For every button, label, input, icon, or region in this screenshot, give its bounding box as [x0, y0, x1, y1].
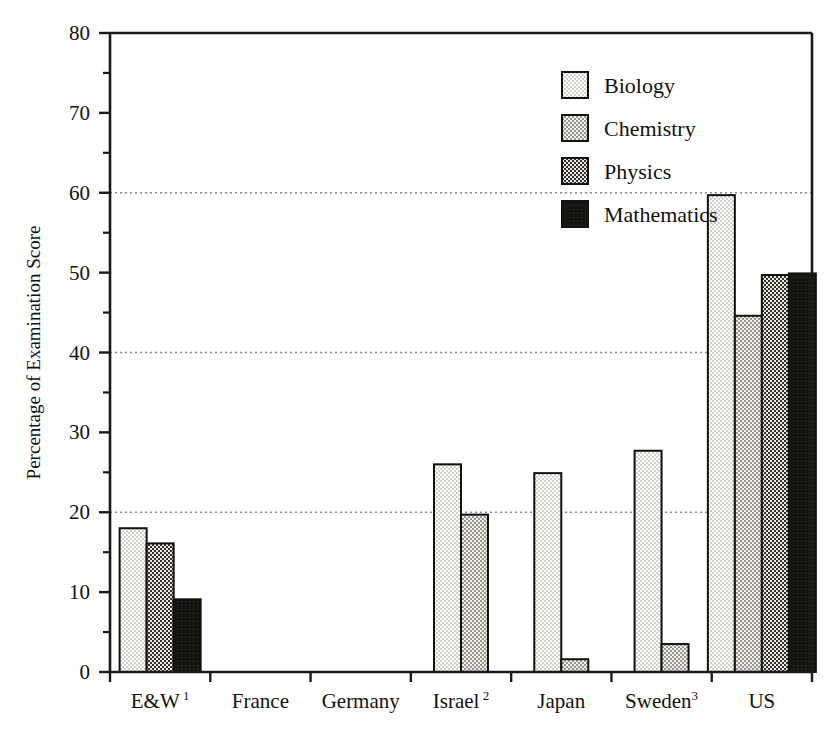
bar-biology-us	[708, 195, 735, 672]
x-category-text: E&W 1	[131, 688, 190, 713]
x-category-label: France	[232, 689, 289, 713]
bar-biology-israel	[434, 464, 461, 672]
bar-biology-ew	[120, 528, 147, 672]
x-category-text: Israel 2	[433, 688, 489, 713]
bar-chemistry-sweden	[662, 644, 689, 672]
bar-chart-figure: 01020304050607080 E&W 1FranceGermanyIsra…	[0, 0, 837, 739]
x-category-text: US	[748, 689, 775, 713]
legend-item-biology: Biology	[562, 72, 675, 98]
x-axis	[110, 672, 812, 682]
x-category-label: Israel 2	[433, 688, 489, 713]
legend-swatch-biology	[562, 72, 588, 98]
x-category-text: Japan	[537, 689, 585, 713]
legend-label-mathematics: Mathematics	[604, 202, 718, 227]
legend-item-mathematics: Mathematics	[562, 201, 718, 227]
legend-swatch-chemistry	[562, 115, 588, 141]
legend-label-physics: Physics	[604, 159, 671, 184]
y-axis-title: Percentage of Examination Score	[23, 226, 44, 480]
y-axis-title-text: Percentage of Examination Score	[23, 226, 44, 480]
legend-item-physics: Physics	[562, 158, 671, 184]
x-category-label: E&W 1	[131, 688, 190, 713]
y-tick-label: 80	[69, 21, 90, 45]
x-axis-labels: E&W 1FranceGermanyIsrael 2JapanSweden3US	[131, 688, 776, 713]
x-category-label: Germany	[322, 689, 401, 713]
legend-item-chemistry: Chemistry	[562, 115, 696, 141]
bar-physics-ew	[147, 543, 174, 672]
x-category-label: US	[748, 689, 775, 713]
y-tick-label: 10	[69, 580, 90, 604]
legend-swatch-physics	[562, 158, 588, 184]
x-category-text: Germany	[322, 689, 401, 713]
x-category-label: Sweden3	[625, 688, 698, 713]
y-tick-label: 70	[69, 101, 90, 125]
bar-biology-japan	[534, 473, 561, 672]
bar-chemistry-israel	[461, 515, 488, 672]
x-category-label: Japan	[537, 689, 585, 713]
bar-biology-sweden	[635, 451, 662, 672]
x-category-text: France	[232, 689, 289, 713]
legend-label-biology: Biology	[604, 73, 675, 98]
bar-chemistry-japan	[561, 659, 588, 672]
y-tick-label: 30	[69, 420, 90, 444]
bar-mathematics-ew	[174, 599, 201, 672]
y-tick-label: 20	[69, 500, 90, 524]
y-tick-label: 40	[69, 341, 90, 365]
chart-legend: BiologyChemistryPhysicsMathematics	[562, 72, 718, 227]
legend-label-chemistry: Chemistry	[604, 116, 696, 141]
bars-group	[120, 195, 816, 672]
bar-chemistry-us	[735, 316, 762, 672]
legend-swatch-mathematics	[562, 201, 588, 227]
y-tick-label: 50	[69, 261, 90, 285]
y-tick-label: 60	[69, 181, 90, 205]
y-tick-label: 0	[80, 660, 91, 684]
x-category-text: Sweden3	[625, 688, 698, 713]
bar-physics-us	[762, 275, 789, 672]
chart-canvas: 01020304050607080 E&W 1FranceGermanyIsra…	[0, 0, 837, 739]
y-axis: 01020304050607080	[69, 21, 110, 684]
